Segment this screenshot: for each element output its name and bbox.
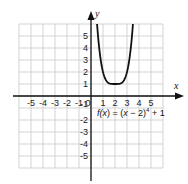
y-tick-label: 5	[83, 31, 88, 41]
x-tick-label: -5	[27, 98, 35, 108]
x-tick-labels: -5-4-3-2-1012345	[27, 98, 154, 108]
x-tick-label: -3	[51, 98, 59, 108]
x-axis-arrow-icon	[175, 93, 184, 100]
x-axis-label: x	[173, 80, 179, 91]
y-axis-arrow-icon	[88, 11, 95, 20]
x-tick-label: -2	[63, 98, 71, 108]
y-axis-label: y	[94, 8, 100, 19]
y-tick-label: -2	[80, 115, 88, 125]
y-tick-label: 4	[83, 43, 88, 53]
y-tick-label: -5	[80, 151, 88, 161]
function-label: f(x) = (x − 2)4 + 1	[97, 107, 165, 118]
y-tick-label: -4	[80, 139, 88, 149]
x-tick-label: 3	[124, 98, 129, 108]
y-tick-label: -3	[80, 127, 88, 137]
y-tick-label: 1	[83, 79, 88, 89]
x-tick-label: 4	[136, 98, 141, 108]
y-tick-label: 2	[83, 67, 88, 77]
y-tick-label: 3	[83, 55, 88, 65]
function-graph: x y -5-4-3-2-1012345 -5-4-3-2-112345 f(x…	[0, 0, 188, 184]
y-tick-label: -1	[80, 99, 88, 109]
x-tick-label: 2	[112, 98, 117, 108]
x-tick-label: -4	[39, 98, 47, 108]
x-tick-label: 1	[100, 98, 105, 108]
